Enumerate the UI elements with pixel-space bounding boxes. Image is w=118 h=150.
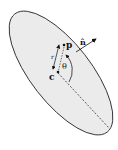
normal-vector-arrow <box>76 39 96 52</box>
label-normal-n: n̂ <box>80 37 86 47</box>
point-p-dot <box>63 44 66 47</box>
label-point-p: p <box>66 40 72 50</box>
ellipse-shape <box>0 0 118 150</box>
ellipse-diagram: c p n̂ θ r <box>0 0 118 150</box>
label-distance-r: r <box>51 53 54 60</box>
label-angle-theta: θ <box>62 62 67 71</box>
point-c-dot <box>57 71 60 74</box>
label-center-c: c <box>49 72 55 82</box>
